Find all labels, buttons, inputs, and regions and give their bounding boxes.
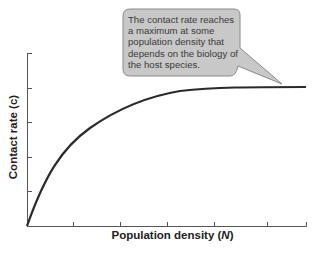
y-axis-label: Contact rate (c) <box>7 72 19 202</box>
axes <box>27 53 307 227</box>
contact-rate-curve <box>27 87 306 226</box>
callout-text: The contact rate reaches a maximum at so… <box>128 14 240 70</box>
x-axis-label: Population density (N) <box>0 229 319 241</box>
